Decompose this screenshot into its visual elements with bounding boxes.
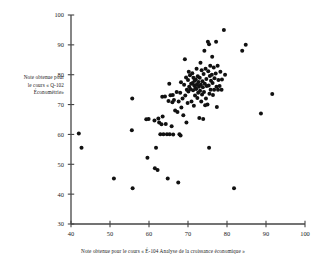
y-tick-label-70: 70 — [58, 101, 64, 108]
data-point — [161, 132, 165, 136]
x-tick-label-90: 90 — [263, 230, 269, 237]
y-tick-label-40: 40 — [58, 191, 64, 198]
data-point — [216, 88, 220, 92]
data-point — [220, 77, 224, 81]
data-point — [186, 101, 190, 105]
data-point — [182, 83, 186, 87]
data-point — [201, 117, 205, 121]
data-point — [202, 72, 206, 76]
data-point — [192, 104, 196, 108]
data-point — [216, 78, 220, 82]
data-point — [211, 93, 215, 97]
data-point — [223, 73, 227, 77]
data-point — [206, 103, 210, 107]
y-tick-label-60: 60 — [58, 131, 64, 138]
data-point — [218, 70, 222, 74]
x-tick-label-70: 70 — [185, 230, 191, 237]
data-point — [170, 124, 174, 128]
data-point — [179, 106, 183, 110]
data-point — [186, 78, 190, 82]
data-point — [207, 83, 211, 87]
data-point — [163, 95, 167, 99]
data-point — [220, 88, 224, 92]
data-point — [198, 89, 202, 93]
tick-labels-group: 30405060708090100405060708090100 — [54, 11, 309, 237]
data-point — [166, 177, 170, 181]
data-point — [171, 132, 175, 136]
data-point — [179, 134, 183, 138]
data-point — [183, 94, 187, 98]
data-point — [222, 28, 226, 32]
data-point — [206, 69, 210, 73]
data-point — [167, 82, 171, 86]
data-point — [164, 122, 168, 126]
data-point — [195, 96, 199, 100]
data-point — [80, 146, 84, 150]
data-point — [186, 89, 190, 93]
data-point — [270, 92, 274, 96]
data-point — [168, 132, 172, 136]
data-point — [232, 186, 236, 190]
data-point — [210, 55, 214, 59]
data-point — [178, 91, 182, 95]
x-tick-label-40: 40 — [68, 230, 74, 237]
data-point — [198, 76, 202, 80]
data-point — [190, 100, 194, 104]
x-tick-label-60: 60 — [146, 230, 152, 237]
y-axis-label: Note obtenue pour le cours « Q-102 Écono… — [6, 74, 64, 97]
data-point — [156, 168, 160, 172]
data-point — [183, 57, 187, 61]
data-point — [199, 100, 203, 104]
data-point — [170, 100, 174, 104]
data-point — [214, 40, 218, 44]
data-point — [161, 115, 165, 119]
data-point — [171, 93, 175, 97]
data-point — [195, 67, 199, 71]
data-point — [167, 99, 171, 103]
data-point — [175, 110, 179, 114]
data-point — [208, 64, 212, 68]
data-point — [154, 146, 158, 150]
data-point — [130, 97, 134, 101]
data-point — [204, 97, 208, 101]
data-point — [200, 68, 204, 72]
y-axis-label-line-3: Économétrie» — [6, 89, 64, 97]
data-point — [159, 122, 163, 126]
data-point — [181, 113, 185, 117]
data-point — [181, 97, 185, 101]
data-point — [194, 87, 198, 91]
axes-group — [71, 15, 305, 224]
data-point — [198, 61, 202, 65]
data-point — [112, 177, 116, 181]
data-point — [214, 72, 218, 76]
data-point — [211, 81, 215, 85]
data-point — [207, 92, 211, 96]
data-point — [202, 49, 206, 53]
data-point — [147, 117, 151, 121]
data-point — [145, 156, 149, 160]
data-point — [216, 64, 220, 68]
data-point — [77, 132, 81, 136]
data-point — [156, 117, 160, 121]
x-tick-label-50: 50 — [107, 230, 113, 237]
data-point — [202, 90, 206, 94]
data-point — [259, 112, 263, 116]
x-axis-label: Note obtenue pour le cours « É-104 Analy… — [0, 248, 326, 254]
data-point — [131, 186, 135, 190]
data-point — [190, 71, 194, 75]
scatter-plot-figure: 30405060708090100405060708090100 Note ob… — [0, 0, 326, 266]
data-point — [177, 100, 181, 104]
y-axis-label-line-1: Note obtenue pour — [6, 74, 64, 82]
data-point — [187, 70, 191, 74]
data-point — [244, 43, 248, 47]
x-tick-label-80: 80 — [224, 230, 230, 237]
data-point — [218, 84, 222, 88]
y-tick-label-90: 90 — [58, 41, 64, 48]
y-tick-label-30: 30 — [58, 220, 64, 227]
y-tick-label-100: 100 — [54, 11, 64, 18]
data-point — [212, 66, 216, 70]
data-point — [184, 120, 188, 124]
data-point — [209, 88, 213, 92]
data-point — [201, 85, 205, 89]
data-point — [204, 77, 208, 81]
